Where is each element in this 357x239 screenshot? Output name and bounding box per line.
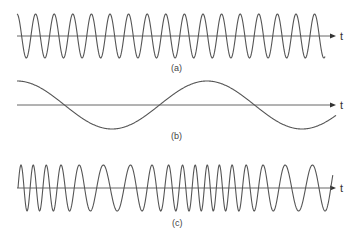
panel-label-b: (b)	[171, 131, 182, 141]
arrow-icon-a	[330, 34, 336, 39]
panel-label-c: (c)	[172, 218, 183, 228]
fm-diagram: t (a) t (b) t (c)	[0, 0, 357, 239]
panel-b-modulating: t (b)	[17, 81, 343, 141]
panel-a-carrier: t (a)	[17, 14, 343, 73]
axis-label-t-c: t	[340, 182, 343, 194]
arrow-icon-b	[330, 103, 336, 108]
panel-c-fm: t (c)	[17, 165, 343, 228]
axis-label-t-a: t	[340, 30, 343, 42]
panel-label-a: (a)	[171, 63, 182, 73]
axis-label-t-b: t	[340, 99, 343, 111]
